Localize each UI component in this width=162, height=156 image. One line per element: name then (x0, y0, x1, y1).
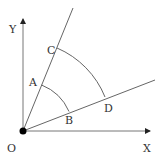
ray-oc (23, 8, 73, 131)
label-y: Y (8, 23, 17, 36)
arc-ab (42, 85, 69, 112)
origin-point (20, 128, 27, 135)
label-c: C (47, 44, 55, 57)
label-o: O (7, 142, 16, 155)
label-b: B (65, 114, 73, 127)
label-d: D (104, 102, 113, 115)
label-x: X (143, 142, 151, 155)
ray-od (23, 80, 155, 131)
label-a: A (28, 76, 38, 89)
arc-cd (57, 48, 105, 97)
geometry-diagram: Y X O A B C D (0, 0, 162, 156)
